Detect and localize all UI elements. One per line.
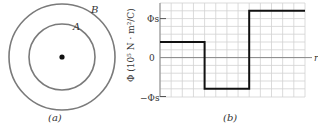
ytick-label-neg-phis: −Φs — [140, 93, 160, 103]
y-axis-label: Φ (10⁵ N · m²/C) — [126, 8, 136, 82]
label-a: A — [72, 21, 80, 32]
ytick-label-zero: 0 — [149, 53, 155, 63]
ytick-label-phis: Φs — [147, 14, 159, 24]
central-charge-dot — [59, 54, 64, 59]
x-axis-label-r: r — [314, 53, 318, 63]
panel-b-flux-plot: Φs 0 −Φs r Φ (10⁵ N · m²/C) (b) — [120, 0, 318, 128]
label-b: B — [90, 4, 98, 15]
grid-lines — [160, 3, 305, 97]
caption-a: (a) — [48, 112, 62, 123]
concentric-circles-diagram: A B — [0, 0, 140, 128]
panel-a-concentric-spheres: A B (a) — [0, 0, 140, 128]
caption-b: (b) — [223, 112, 237, 123]
flux-step-chart: Φs 0 −Φs r Φ (10⁵ N · m²/C) — [120, 0, 318, 128]
